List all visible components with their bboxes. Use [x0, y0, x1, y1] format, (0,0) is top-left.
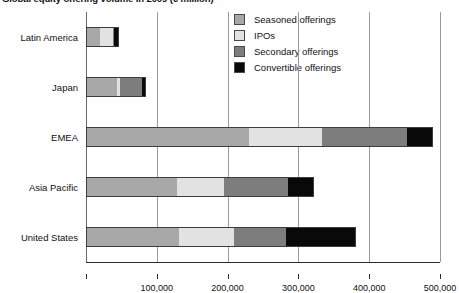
bar-segment[interactable] [86, 227, 179, 247]
x-tick-mark [369, 274, 370, 279]
y-axis-label-latin-america: Latin America [0, 32, 78, 43]
bar-segment[interactable] [286, 227, 356, 247]
y-axis-label-asia-pacific: Asia Pacific [0, 182, 78, 193]
x-tick-mark [440, 274, 441, 279]
bar-segment[interactable] [234, 227, 286, 247]
bar-segment[interactable] [100, 27, 113, 47]
x-tick-label: 400,000 [353, 283, 386, 293]
bar-segment[interactable] [86, 127, 249, 147]
x-tick-mark [157, 274, 158, 279]
x-tick-mark [298, 274, 299, 279]
x-tick-mark-origin [86, 274, 87, 279]
x-tick-label: 100,000 [141, 283, 174, 293]
x-tick-label: 200,000 [211, 283, 244, 293]
y-axis-label-united-states: United States [0, 232, 78, 243]
x-tick-mark [228, 274, 229, 279]
bar-stack-emea[interactable] [86, 127, 433, 147]
bar-stack-united-states[interactable] [86, 227, 356, 247]
plot-area: 100,000200,000300,000400,000500,000 [86, 12, 440, 262]
bar-segment[interactable] [86, 177, 177, 197]
x-tick-label: 500,000 [424, 283, 457, 293]
bar-segment[interactable] [177, 177, 224, 197]
bar-segment[interactable] [86, 77, 117, 97]
bar-segment[interactable] [288, 177, 314, 197]
x-axis-line [86, 262, 440, 263]
bar-segment[interactable] [120, 77, 142, 97]
chart-title: Global equity offering volume in 2009 (€… [2, 0, 214, 4]
bar-stack-japan[interactable] [86, 77, 146, 97]
bar-segment[interactable] [114, 27, 118, 47]
bar-segment[interactable] [224, 177, 288, 197]
bar-segment[interactable] [407, 127, 432, 147]
bar-segment[interactable] [322, 127, 408, 147]
bar-segment[interactable] [86, 27, 100, 47]
bar-segment[interactable] [142, 77, 146, 97]
gridline [440, 12, 441, 262]
x-tick-label: 300,000 [282, 283, 315, 293]
bar-stack-asia-pacific[interactable] [86, 177, 314, 197]
y-axis-label-japan: Japan [0, 82, 78, 93]
bar-segment[interactable] [249, 127, 322, 147]
y-axis-label-emea: EMEA [0, 132, 78, 143]
bar-segment[interactable] [179, 227, 234, 247]
bar-stack-latin-america[interactable] [86, 27, 119, 47]
